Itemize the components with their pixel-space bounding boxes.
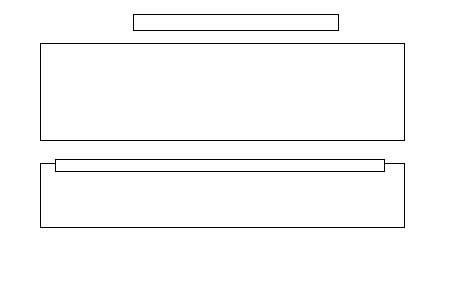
figure-root bbox=[0, 0, 450, 294]
top-plot-area bbox=[40, 43, 405, 141]
bottom-legend bbox=[55, 159, 385, 172]
temperature-humidity-chart bbox=[0, 0, 450, 152]
top-legend bbox=[133, 14, 339, 31]
top-series-svg bbox=[41, 44, 406, 142]
bottom-plot-area bbox=[40, 163, 405, 228]
aphid-parasitism-chart bbox=[0, 155, 450, 294]
bottom-series-svg bbox=[41, 164, 406, 229]
